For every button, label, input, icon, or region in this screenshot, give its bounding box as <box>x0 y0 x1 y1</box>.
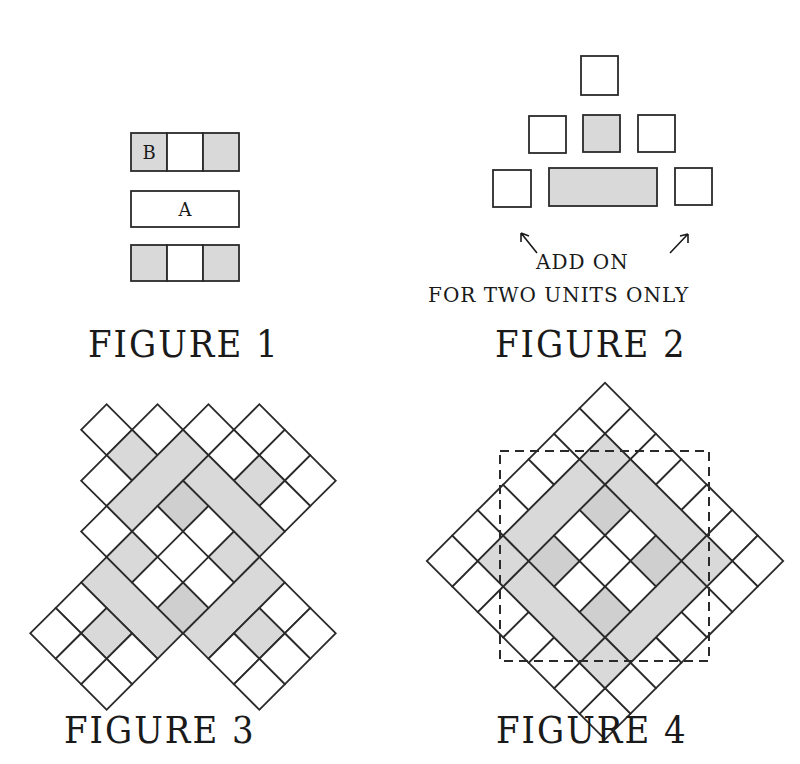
figure-3: FIGURE 3 <box>0 380 400 764</box>
square-white <box>675 168 712 205</box>
square-white <box>529 116 566 153</box>
figure-4-caption: FIGURE 4 <box>496 708 688 752</box>
figure-4-drawing <box>400 380 800 764</box>
square-white <box>493 170 531 207</box>
square-shaded <box>583 115 620 152</box>
square-top <box>581 56 618 95</box>
figure-2-note-line1: ADD ON <box>536 250 629 274</box>
figure-3-caption: FIGURE 3 <box>64 708 256 752</box>
arrow-up-left-icon <box>521 233 537 253</box>
figure-4: FIGURE 4 <box>400 380 800 764</box>
bar-shaded <box>549 168 657 206</box>
figure-2: ADD ON FOR TWO UNITS ONLY FIGURE 2 <box>0 0 800 380</box>
arrow-up-right-icon <box>670 234 688 253</box>
figure-2-note-line2: FOR TWO UNITS ONLY <box>428 283 689 307</box>
square-white <box>638 115 675 152</box>
figure-2-caption: FIGURE 2 <box>495 322 687 366</box>
figure-3-drawing <box>0 380 400 764</box>
